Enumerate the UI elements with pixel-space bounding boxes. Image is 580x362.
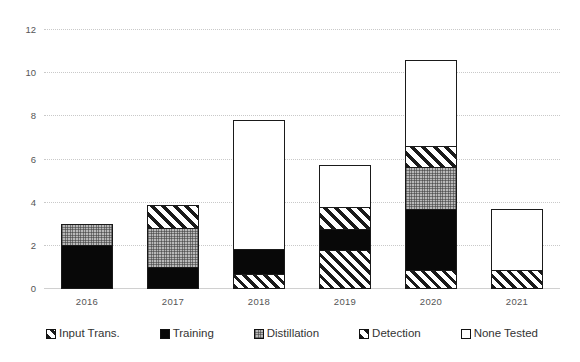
bar-segment-2017-distillation[interactable] [147,228,199,268]
gridline-8 [44,115,560,116]
legend-item-none-tested[interactable]: None Tested [461,328,538,340]
bar-2021[interactable] [491,209,543,288]
x-tick-label-2021: 2021 [481,296,553,307]
bar-segment-2019-training[interactable] [319,229,371,251]
legend-label: None Tested [474,328,538,340]
gridline-4 [44,202,560,203]
legend-swatch-icon [359,329,369,339]
legend-swatch-icon [254,329,264,339]
legend-label: Input Trans. [59,328,120,340]
x-tick-label-2020: 2020 [395,296,467,307]
bar-segment-2018-none-tested[interactable] [233,120,285,250]
bar-segment-2020-input-trans[interactable] [405,270,457,288]
bar-2016[interactable] [61,224,113,288]
x-tick-label-2018: 2018 [223,296,295,307]
x-tick-label-2019: 2019 [309,296,381,307]
legend-label: Training [173,328,214,340]
gridline-2 [44,245,560,246]
bar-2018[interactable] [233,120,285,288]
bar-segment-2016-distillation[interactable] [61,224,113,246]
bar-segment-2019-detection[interactable] [319,207,371,230]
legend-item-detection[interactable]: Detection [359,328,421,340]
y-tick-label-10: 10 [10,67,36,78]
legend-swatch-icon [461,329,471,339]
bar-segment-2017-training[interactable] [147,267,199,289]
legend-item-distillation[interactable]: Distillation [254,328,319,340]
bar-segment-2016-training[interactable] [61,245,113,288]
bar-segment-2020-detection[interactable] [405,146,457,168]
gridline-10 [44,72,560,73]
gridline-6 [44,159,560,160]
legend-swatch-icon [46,329,56,339]
legend-item-input-trans[interactable]: Input Trans. [46,328,120,340]
y-tick-label-6: 6 [10,153,36,164]
bar-segment-2021-input-trans[interactable] [491,270,543,288]
bar-segment-2020-distillation[interactable] [405,167,457,210]
bar-segment-2018-training[interactable] [233,249,285,274]
x-tick-label-2017: 2017 [137,296,209,307]
chart-legend: Input Trans.TrainingDistillationDetectio… [46,324,538,344]
legend-item-training[interactable]: Training [160,328,214,340]
legend-swatch-icon [160,329,170,339]
legend-label: Detection [372,328,421,340]
y-tick-label-2: 2 [10,239,36,250]
bar-segment-2020-training[interactable] [405,209,457,271]
y-tick-label-0: 0 [10,283,36,294]
bar-segment-2020-none-tested[interactable] [405,60,457,146]
bar-2017[interactable] [147,205,199,288]
y-tick-label-4: 4 [10,196,36,207]
y-tick-label-12: 12 [10,24,36,35]
gridline-12 [44,29,560,30]
bar-2019[interactable] [319,165,371,288]
stacked-bar-chart: 024681012 201620172018201920202021 Input… [0,0,580,362]
legend-label: Distillation [267,328,319,340]
plot-area [44,29,560,288]
gridline-0 [44,288,560,289]
bar-2020[interactable] [405,60,457,288]
bar-segment-2021-none-tested[interactable] [491,209,543,271]
bar-segment-2019-none-tested[interactable] [319,165,371,207]
bar-segment-2019-input-trans[interactable] [319,250,371,289]
x-tick-label-2016: 2016 [51,296,123,307]
y-tick-label-8: 8 [10,110,36,121]
bar-segment-2017-detection[interactable] [147,205,199,229]
bar-segment-2018-input-trans[interactable] [233,274,285,289]
